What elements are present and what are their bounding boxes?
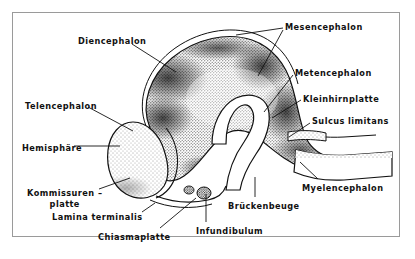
label-text: Sulcus limitans [312,116,389,126]
label-mesencephalon: Mesencephalon [285,22,363,33]
leader-mesencephalon-a [236,28,283,35]
label-kommissurenplatte: Kommissuren –platte [27,188,102,209]
label-text: Hemisphäre [22,143,82,153]
label-sulcus-limitans: Sulcus limitans [312,116,389,127]
brain-diagram-figure: DiencephalonMesencephalonMetencephalonKl… [0,0,415,259]
label-text: Telencephalon [25,101,97,111]
label-text: Brückenbeuge [228,201,300,211]
label-text: Diencephalon [78,36,146,46]
label-metencephalon: Metencephalon [295,68,372,79]
label-text: Infundibulum [196,226,263,236]
label-kleinhirnplatte: Kleinhirnplatte [303,94,379,105]
label-text: Mesencephalon [285,22,363,32]
label-text-line2: platte [50,199,80,209]
label-text: Kleinhirnplatte [303,94,379,104]
label-infundibulum: Infundibulum [196,226,263,237]
label-chiasmaplatte: Chiasmaplatte [98,232,171,243]
leader-diencephalon [132,44,176,72]
leader-lamina-terminalis [142,203,155,212]
label-lamina-terminalis: Lamina terminalis [52,212,143,223]
roof-plate-flap [288,131,326,141]
label-text: Lamina terminalis [52,212,143,222]
label-text: Chiasmaplatte [98,232,171,242]
label-hemisphaere: Hemisphäre [22,143,82,154]
label-telencephalon: Telencephalon [25,101,97,112]
label-text: Myelencephalon [302,183,383,193]
label-brueckenbeuge: Brückenbeuge [228,201,300,212]
leader-chiasmaplatte [160,198,196,228]
label-text: Kommissuren – [27,188,102,198]
label-diencephalon: Diencephalon [78,36,146,47]
label-text: Metencephalon [295,68,372,78]
label-myelencephalon: Myelencephalon [302,183,383,194]
infundibulum-bulb [197,187,211,199]
